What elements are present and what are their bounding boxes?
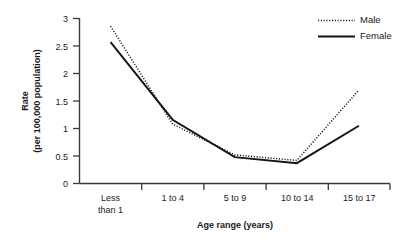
x-label-1-to-4: 1 to 4 (162, 193, 185, 203)
y-tick-label-2_5: 2.5 (55, 42, 68, 52)
y-axis-title-line2: (per 100,000 population) (32, 49, 42, 153)
x-label-less-than-1-line2: than 1 (98, 205, 123, 215)
line-chart: 3 2.5 2 1.5 1 0.5 0 Rate (per 100,000 po… (0, 0, 412, 243)
y-axis-tick-labels: 3 2.5 2 1.5 1 0.5 0 (55, 14, 68, 189)
y-tick-label-1: 1 (63, 124, 68, 134)
x-label-10-to-14: 10 to 14 (281, 193, 314, 203)
x-axis-category-labels: Less than 1 1 to 4 5 to 9 10 to 14 15 to… (98, 193, 375, 215)
legend-label-male: Male (360, 14, 381, 25)
y-tick-label-0_5: 0.5 (55, 152, 68, 162)
y-axis-title: Rate (per 100,000 population) (20, 49, 42, 153)
y-axis-ticks (73, 19, 80, 184)
y-tick-label-3: 3 (63, 14, 68, 24)
x-label-5-to-9: 5 to 9 (224, 193, 247, 203)
x-axis-title: Age range (years) (197, 220, 273, 230)
y-tick-label-1_5: 1.5 (55, 97, 68, 107)
y-tick-label-0: 0 (63, 179, 68, 189)
x-axis-ticks (142, 184, 390, 191)
chart-canvas: 3 2.5 2 1.5 1 0.5 0 Rate (per 100,000 po… (0, 0, 412, 243)
chart-legend: Male Female (318, 14, 392, 41)
series-line-female (111, 42, 359, 163)
legend-label-female: Female (360, 30, 392, 41)
x-label-less-than-1-line1: Less (101, 193, 121, 203)
x-label-15-to-17: 15 to 17 (343, 193, 376, 203)
y-axis-title-line1: Rate (20, 91, 30, 111)
series-line-male (111, 26, 359, 160)
y-tick-label-2: 2 (63, 69, 68, 79)
